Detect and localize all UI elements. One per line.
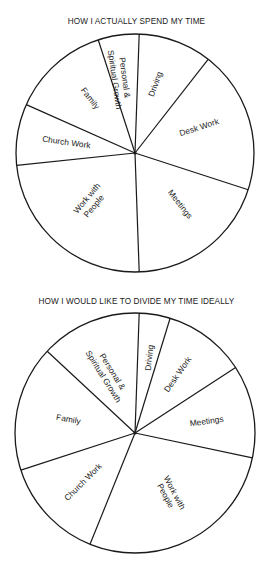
pie-center [133,151,136,154]
pie-charts: Driving Desk Work Meetings Work with Peo… [0,0,273,570]
pie-chart-actual [16,34,254,272]
pie-center [133,431,136,434]
pie-chart-ideal [15,313,255,553]
page: HOW I ACTUALLY SPEND MY TIME HOW I WOULD… [0,0,273,570]
